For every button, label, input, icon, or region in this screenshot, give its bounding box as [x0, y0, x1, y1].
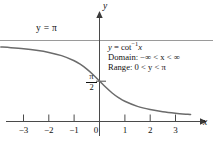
equation-argument: x	[138, 42, 142, 52]
range-line: Range: 0 < y < π	[108, 62, 180, 72]
function-info-box: y = cot−1x Domain: −∞ < x < ∞ Range: 0 <…	[108, 42, 180, 73]
x-tick-label-3: 3	[169, 125, 183, 135]
x-tick-label-neg1: −1	[67, 125, 81, 135]
x-tick-label-neg3: −3	[17, 125, 31, 135]
domain-label: Domain:	[108, 52, 138, 62]
x-tick-label-neg2: −2	[42, 125, 56, 135]
x-tick-label-2: 2	[143, 125, 157, 135]
y-axis-arrowhead	[96, 11, 102, 18]
asymptote-label: y = π	[36, 24, 57, 34]
range-value: 0 < y < π	[135, 62, 166, 72]
inverse-cotangent-graph-figure: y = π y x π 2 −3 −2 −1 0 1 2 3 y = cot−1…	[0, 0, 213, 156]
x-tick-label-0: 0	[89, 125, 103, 135]
domain-line: Domain: −∞ < x < ∞	[108, 52, 180, 62]
equation-function: cot	[121, 42, 132, 52]
range-label: Range:	[108, 62, 132, 72]
equation-lhs: y	[108, 42, 112, 52]
equation-line: y = cot−1x	[108, 42, 180, 52]
y-axis-label: y	[103, 2, 107, 12]
pi-half-denominator: 2	[86, 83, 97, 93]
pi-half-numerator: π	[86, 72, 97, 83]
y-axis-tick-label-pi-over-2: π 2	[86, 72, 97, 92]
x-tick-label-1: 1	[118, 125, 132, 135]
domain-value: −∞ < x < ∞	[140, 52, 180, 62]
equation-equals: =	[114, 42, 119, 52]
x-axis-label: x	[203, 118, 207, 128]
